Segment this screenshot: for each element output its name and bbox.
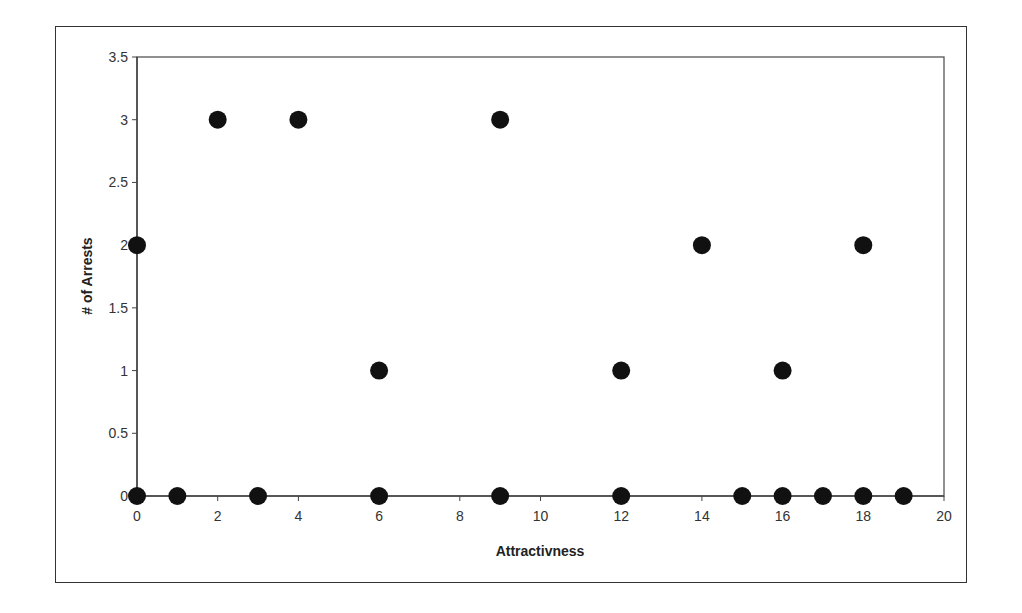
data-point [491,487,509,505]
x-axis-title: Attractivness [496,543,585,559]
plot-area [137,57,944,496]
data-point [774,362,792,380]
data-point [249,487,267,505]
x-tick-label: 0 [133,508,141,524]
data-point [128,487,146,505]
data-point [854,487,872,505]
x-tick-label: 12 [613,508,629,524]
data-point [774,487,792,505]
data-point [733,487,751,505]
x-tick-label: 8 [456,508,464,524]
data-point [895,487,913,505]
data-point [491,111,509,129]
y-tick-label: 0 [120,488,128,504]
y-tick-label: 2.5 [109,174,129,190]
y-tick-label: 2 [120,237,128,253]
data-point [814,487,832,505]
data-point [289,111,307,129]
data-point [854,236,872,254]
data-point [612,362,630,380]
x-tick-label: 16 [775,508,791,524]
y-tick-label: 1 [120,363,128,379]
data-point [370,362,388,380]
y-tick-label: 3.5 [109,49,129,65]
plot-border [137,57,944,496]
x-tick-label: 2 [214,508,222,524]
data-point [370,487,388,505]
data-point [128,236,146,254]
x-tick-label: 10 [533,508,549,524]
x-tick-label: 4 [295,508,303,524]
x-tick-label: 6 [375,508,383,524]
data-point [612,487,630,505]
data-point [209,111,227,129]
y-tick-label: 0.5 [109,425,129,441]
y-tick-label: 3 [120,112,128,128]
y-axis: 00.511.522.533.5 [109,49,137,504]
x-tick-label: 14 [694,508,710,524]
y-tick-label: 1.5 [109,300,129,316]
x-tick-label: 18 [856,508,872,524]
y-axis-title: # of Arrests [79,237,95,315]
data-point [168,487,186,505]
scatter-chart: 00.511.522.533.5 02468101214161820 Attra… [0,0,1022,613]
data-point [693,236,711,254]
x-tick-label: 20 [936,508,952,524]
